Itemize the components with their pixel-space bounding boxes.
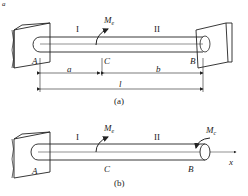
dim-b-label: b — [156, 64, 161, 74]
caption-a: (a) — [114, 96, 124, 106]
right-fixed-support — [196, 23, 232, 68]
segment-2-label: II — [154, 24, 160, 34]
segment-1-label: I — [76, 24, 79, 34]
dim-l-label: l — [119, 79, 122, 89]
point-c-label-b: C — [104, 164, 111, 174]
corner-mark: a — [2, 0, 6, 8]
dim-a-label: a — [67, 64, 72, 74]
figure-a: Me I II A C B a b l (a) — [12, 15, 232, 106]
figure-b: Me Mc I II A C B x (b) — [12, 123, 236, 188]
moment-label-2: Mc — [205, 125, 217, 136]
caption-b: (b) — [114, 178, 125, 188]
moment-label: Me — [103, 15, 115, 26]
shaft-b — [31, 144, 236, 160]
moment-label-1: Me — [103, 123, 115, 134]
moment-arrow-1-icon — [96, 137, 108, 152]
point-b-label-b: B — [188, 164, 194, 174]
point-b-label: B — [190, 56, 196, 66]
point-c-label: C — [104, 56, 111, 66]
shaft-a — [33, 37, 203, 52]
segment-1-label-b: I — [76, 132, 79, 142]
point-a-label-b: A — [31, 166, 38, 176]
left-fixed-support-b — [12, 132, 50, 178]
left-fixed-support — [12, 23, 50, 68]
segment-2-label-b: II — [154, 132, 160, 142]
axis-x-label: x — [228, 157, 233, 167]
point-a-label: A — [31, 56, 38, 66]
torsion-shaft-diagram: a Me I II A C B — [0, 0, 248, 196]
